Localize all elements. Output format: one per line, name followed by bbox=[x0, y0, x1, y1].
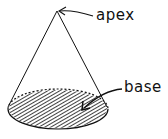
base-label: base bbox=[124, 80, 162, 95]
cone-diagram bbox=[0, 0, 168, 139]
apex-arrow bbox=[59, 7, 93, 16]
apex-label: apex bbox=[96, 8, 135, 23]
cone-base bbox=[8, 89, 108, 129]
